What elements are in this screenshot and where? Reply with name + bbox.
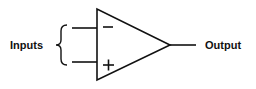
inputs-label: Inputs	[10, 39, 43, 51]
curly-brace-icon	[56, 25, 67, 65]
op-amp-diagram: Inputs Output	[0, 0, 256, 89]
output-label: Output	[205, 39, 241, 51]
